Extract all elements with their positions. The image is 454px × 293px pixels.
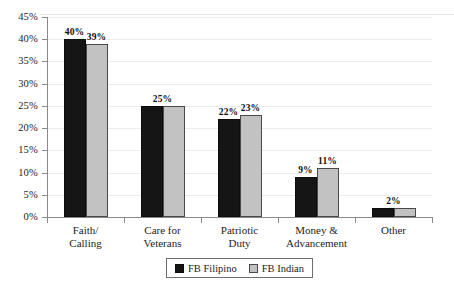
bar-fb-filipino xyxy=(295,177,317,217)
chart-legend: FB Filipino FB Indian xyxy=(166,258,313,278)
bar-value-label-fb-indian: 39% xyxy=(79,32,115,42)
y-axis-tick-label: 40% xyxy=(0,34,38,44)
y-axis-tick-label: 35% xyxy=(0,56,38,66)
y-axis-tick-label: 15% xyxy=(0,145,38,155)
bar-value-label: 25% xyxy=(131,94,195,104)
bar-fb-filipino xyxy=(141,106,163,217)
y-axis-tick-label: 5% xyxy=(0,190,38,200)
y-axis-tick-label: 10% xyxy=(0,168,38,178)
bar-fb-indian xyxy=(86,44,108,217)
bar-fb-indian xyxy=(394,208,416,217)
gray-square-swatch-icon xyxy=(249,264,258,273)
x-axis-tick xyxy=(124,218,125,223)
x-axis-tick xyxy=(355,218,356,223)
category-label-line: Other xyxy=(345,224,442,237)
bar-fb-indian xyxy=(317,168,339,217)
y-axis-tick-label: 25% xyxy=(0,101,38,111)
black-square-swatch-icon xyxy=(175,264,184,273)
x-axis-tick xyxy=(47,218,48,223)
bar-value-label-fb-indian: 11% xyxy=(310,156,346,166)
x-axis-tick xyxy=(432,218,433,223)
y-axis-tick-label: 20% xyxy=(0,123,38,133)
bar-value-label-fb-indian: 23% xyxy=(233,103,269,113)
bar-fb-filipino xyxy=(218,119,240,217)
bar-fb-indian xyxy=(163,106,185,217)
bar-value-label-fb-filipino: 9% xyxy=(288,165,324,175)
category-label-line: Advancement xyxy=(268,237,365,250)
bar-fb-filipino xyxy=(64,39,86,217)
y-axis-tick-label: 45% xyxy=(0,12,38,22)
bar-fb-filipino xyxy=(372,208,394,217)
y-axis-tick-label: 30% xyxy=(0,79,38,89)
bar-chart: 45%40%35%30%25%20%15%10%5%0% 40%39%25%22… xyxy=(0,0,454,293)
x-axis-category-label: Other xyxy=(345,224,442,237)
legend-label-fb-filipino: FB Filipino xyxy=(188,263,237,274)
y-axis-tick-label: 0% xyxy=(0,212,38,222)
x-axis-line xyxy=(47,217,433,218)
legend-label-fb-indian: FB Indian xyxy=(262,263,304,274)
legend-entry-fb-filipino: FB Filipino xyxy=(175,263,237,274)
bar-fb-indian xyxy=(240,115,262,217)
chart-top-rule xyxy=(40,14,454,15)
x-axis-tick xyxy=(278,218,279,223)
legend-entry-fb-indian: FB Indian xyxy=(249,263,304,274)
x-axis-tick xyxy=(201,218,202,223)
bar-value-label: 2% xyxy=(362,196,426,206)
